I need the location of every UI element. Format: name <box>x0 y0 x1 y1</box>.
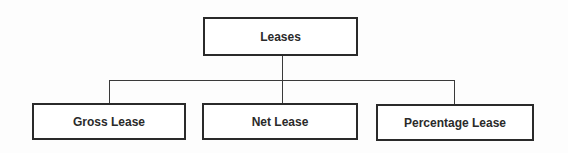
root-connector-vertical <box>282 55 283 81</box>
gross-lease-connector <box>109 80 110 103</box>
node-leases-label: Leases <box>260 30 301 44</box>
node-net-lease-label: Net Lease <box>252 115 309 129</box>
node-leases: Leases <box>203 17 358 56</box>
node-net-lease: Net Lease <box>202 103 358 140</box>
node-percentage-lease: Percentage Lease <box>376 104 534 141</box>
node-gross-lease-label: Gross Lease <box>73 115 145 129</box>
lease-types-diagram: Leases Gross Lease Net Lease Percentage … <box>0 0 568 153</box>
node-percentage-lease-label: Percentage Lease <box>404 116 506 130</box>
net-lease-connector <box>282 80 283 103</box>
node-gross-lease: Gross Lease <box>32 103 186 140</box>
percentage-lease-connector <box>454 80 455 104</box>
